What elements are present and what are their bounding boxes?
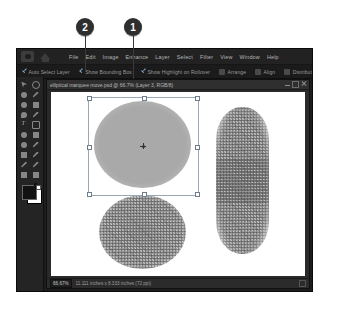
- tool-zoom[interactable]: [31, 80, 42, 89]
- checkbox-auto-select-layer[interactable]: Auto Select Layer: [22, 69, 70, 75]
- checkbox-label: Show Highlight on Rollover: [147, 69, 210, 75]
- canvas-scroll-area[interactable]: [47, 90, 309, 278]
- tool-move[interactable]: [19, 80, 30, 89]
- callout-badge-2: 2: [76, 18, 94, 36]
- dropdown-label: Align: [264, 69, 276, 75]
- color-swatches[interactable]: [21, 185, 39, 205]
- tool-paint-bucket[interactable]: [31, 160, 42, 169]
- home-icon[interactable]: [39, 51, 52, 62]
- noisy-pill-shape[interactable]: [216, 107, 269, 254]
- check-icon: [141, 70, 145, 74]
- tool-redeye[interactable]: [19, 140, 30, 149]
- callout-leader-1: [133, 36, 134, 79]
- menu-view[interactable]: View: [220, 54, 232, 60]
- checkbox-label: Show Bounding Box: [85, 69, 132, 75]
- tool-clone-stamp[interactable]: [19, 150, 30, 159]
- callout-badge-1: 1: [124, 18, 142, 36]
- document-status-bar: 66.67% 11.111 inches x 8.333 inches (72 …: [47, 278, 309, 288]
- application-window: File Edit Image Enhance Layer Select Fil…: [16, 48, 313, 292]
- menu-window[interactable]: Window: [240, 54, 260, 60]
- document-title: elliptical marquee move.psd @ 66.7% (Lay…: [50, 82, 285, 88]
- image-canvas[interactable]: [51, 92, 305, 276]
- dropdown-arrange[interactable]: Arrange: [219, 69, 246, 75]
- menu-layer[interactable]: Layer: [155, 54, 170, 60]
- check-icon: [22, 70, 26, 74]
- handle-bottom-center[interactable]: [142, 192, 147, 197]
- tool-magic-wand[interactable]: [31, 110, 42, 119]
- menu-filter[interactable]: Filter: [200, 54, 213, 60]
- document-window: elliptical marquee move.psd @ 66.7% (Lay…: [46, 79, 310, 289]
- checkbox-label: Auto Select Layer: [29, 69, 70, 75]
- dropdown-align[interactable]: Align: [255, 69, 275, 75]
- handle-top-center[interactable]: [142, 96, 147, 101]
- document-title-bar[interactable]: elliptical marquee move.psd @ 66.7% (Lay…: [47, 80, 309, 90]
- menu-image[interactable]: Image: [103, 54, 119, 60]
- transform-bounding-box[interactable]: [88, 97, 199, 197]
- toolbox-panel: [17, 77, 44, 291]
- camera-icon[interactable]: [21, 51, 34, 62]
- noisy-circle-shape[interactable]: [99, 195, 185, 269]
- move-pivot-icon[interactable]: [140, 143, 146, 149]
- close-button[interactable]: [301, 81, 306, 86]
- menu-edit[interactable]: Edit: [86, 54, 96, 60]
- menu-help[interactable]: Help: [267, 54, 279, 60]
- tool-cookie-cutter[interactable]: [19, 130, 30, 139]
- handle-middle-left[interactable]: [87, 145, 92, 150]
- tool-quick-select[interactable]: [19, 100, 30, 109]
- noise-texture: [216, 107, 269, 254]
- tool-crop[interactable]: [31, 120, 42, 129]
- tool-eyedropper[interactable]: [31, 90, 42, 99]
- maximize-button[interactable]: [292, 81, 299, 88]
- document-dimensions: 11.111 inches x 8.333 inches (72 ppi): [76, 281, 295, 286]
- tool-shape[interactable]: [31, 170, 42, 179]
- checkbox-show-highlight-on-rollover[interactable]: Show Highlight on Rollover: [141, 69, 210, 75]
- zoom-level-field[interactable]: 66.67%: [50, 279, 72, 288]
- handle-top-left[interactable]: [87, 96, 92, 101]
- dropdown-distribute[interactable]: Distribute: [284, 69, 313, 75]
- tool-grid: [17, 80, 43, 179]
- default-colors-icon[interactable]: [34, 183, 39, 188]
- dropdown-label: Distribute: [293, 69, 313, 75]
- checkbox-show-bounding-box[interactable]: Show Bounding Box: [79, 69, 132, 75]
- work-area: elliptical marquee move.psd @ 66.7% (Lay…: [17, 77, 312, 291]
- tool-eraser[interactable]: [19, 160, 30, 169]
- menu-select[interactable]: Select: [177, 54, 193, 60]
- menu-bar: File Edit Image Enhance Layer Select Fil…: [17, 49, 312, 65]
- distribute-icon: [284, 69, 290, 75]
- tool-gradient[interactable]: [19, 170, 30, 179]
- handle-bottom-left[interactable]: [87, 192, 92, 197]
- callout-leader-2: [85, 36, 86, 72]
- menu-enhance[interactable]: Enhance: [126, 54, 149, 60]
- dropdown-label: Arrange: [228, 69, 247, 75]
- noise-texture: [99, 195, 185, 269]
- window-controls: [285, 81, 306, 88]
- align-icon: [255, 69, 261, 75]
- tool-marquee[interactable]: [31, 100, 42, 109]
- handle-bottom-right[interactable]: [195, 192, 200, 197]
- check-icon: [79, 70, 83, 74]
- minimize-button[interactable]: [285, 81, 290, 86]
- handle-top-right[interactable]: [195, 96, 200, 101]
- tool-hand[interactable]: [19, 90, 30, 99]
- tool-type[interactable]: [19, 120, 30, 129]
- tool-brush[interactable]: [31, 150, 42, 159]
- handle-middle-right[interactable]: [195, 145, 200, 150]
- menu-file[interactable]: File: [69, 54, 79, 60]
- arrange-icon: [219, 69, 225, 75]
- tool-straighten[interactable]: [31, 130, 42, 139]
- menu-items: File Edit Image Enhance Layer Select Fil…: [69, 54, 286, 60]
- tool-healing-brush[interactable]: [31, 140, 42, 149]
- status-menu-button[interactable]: [299, 280, 306, 287]
